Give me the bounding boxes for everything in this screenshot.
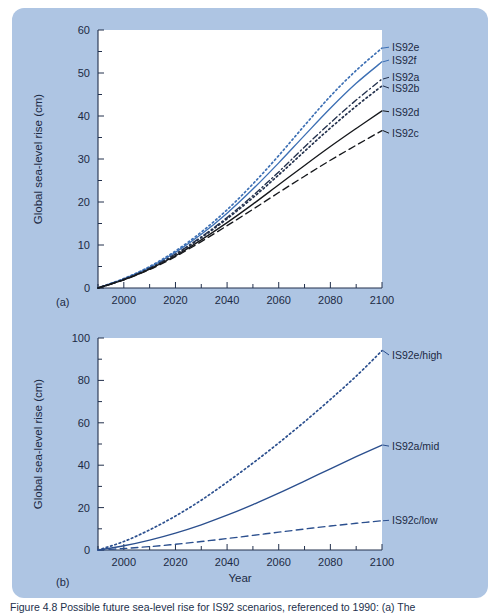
series-leader-IS92b [383,86,389,88]
y-axis-title: Global sea-level rise (cm) [32,379,44,510]
figure-container: 0102030405060200020202040206020802100Yea… [0,0,500,614]
sea-level-rise-chart-b: 020406080100200020202040206020802100Year… [12,318,488,598]
y-axis-tick-label: 50 [78,67,90,79]
series-label-IS92a-mid: IS92a/mid [392,440,439,452]
y-axis-tick-label: 60 [78,24,90,36]
y-axis-tick-label: 0 [84,282,90,294]
panel-letter-a: (a) [56,296,69,308]
x-axis-tick-label: 2100 [370,294,394,306]
x-axis-tick-label: 2080 [318,294,342,306]
series-label-IS92f: IS92f [392,54,417,66]
x-axis-tick-label: 2080 [318,556,342,568]
y-axis-tick-label: 40 [78,459,90,471]
x-axis-tick-label: 2060 [266,556,290,568]
chart-panel-a: 0102030405060200020202040206020802100Yea… [12,8,488,308]
y-axis-title: Global sea-level rise (cm) [32,94,44,225]
series-leader-IS92a-mid [383,445,389,446]
series-leader-IS92e [383,47,389,48]
y-axis-tick-label: 60 [78,417,90,429]
series-leader-IS92a [383,77,389,79]
plot-area-background [98,30,382,288]
panel-letter-b: (b) [56,576,69,588]
series-leader-IS92d [383,111,389,112]
x-axis-tick-label: 2060 [266,294,290,306]
x-axis-tick-label: 2000 [112,556,136,568]
series-label-IS92d: IS92d [392,106,420,118]
figure-caption: Figure 4.8 Possible future sea-level ris… [10,600,490,614]
y-axis-tick-label: 10 [78,239,90,251]
series-leader-IS92c [383,131,389,134]
series-label-IS92c-low: IS92c/low [392,514,438,526]
y-axis-tick-label: 0 [84,544,90,556]
series-label-IS92e: IS92e [392,41,420,53]
y-axis-tick-label: 30 [78,153,90,165]
x-axis-tick-label: 2020 [163,294,187,306]
x-axis-tick-label: 2040 [215,556,239,568]
x-axis-tick-label: 2100 [370,556,394,568]
chart-panel-b: 020406080100200020202040206020802100Year… [12,318,488,598]
series-label-IS92c: IS92c [392,127,419,139]
plot-area-background [98,338,382,550]
y-axis-tick-label: 20 [78,502,90,514]
y-axis-tick-label: 40 [78,110,90,122]
series-label-IS92e-high: IS92e/high [392,349,442,361]
y-axis-tick-label: 80 [78,374,90,386]
x-axis-tick-label: 2020 [163,556,187,568]
y-axis-tick-label: 20 [78,196,90,208]
series-leader-IS92e-high [383,351,389,355]
x-axis-title: Year [228,572,251,584]
series-leader-IS92f [383,60,389,62]
y-axis-tick-label: 100 [72,332,90,344]
series-label-IS92b: IS92b [392,82,420,94]
x-axis-tick-label: 2040 [215,294,239,306]
sea-level-rise-chart-a: 0102030405060200020202040206020802100Yea… [12,8,488,308]
x-axis-tick-label: 2000 [112,294,136,306]
